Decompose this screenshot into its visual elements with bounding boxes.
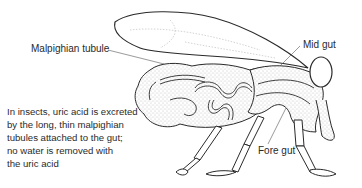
caption-line: In insects, uric acid is excreted: [7, 105, 137, 118]
leader-malpighian-tubule: [108, 50, 164, 64]
wing: [115, 12, 308, 68]
label-fore-gut: Fore gut: [258, 145, 295, 156]
label-mid-gut: Mid gut: [303, 39, 336, 50]
insect-excretion-diagram: Malpighian tubule Mid gut Fore gut In in…: [0, 0, 362, 188]
caption: In insects, uric acid is excreted by the…: [7, 105, 137, 170]
leader-fore-gut: [268, 108, 286, 144]
caption-line: by the long, thin malpighian: [7, 118, 137, 131]
caption-line: the uric acid: [7, 157, 137, 170]
caption-line: no water is removed with: [7, 144, 137, 157]
caption-line: tubules attached to the gut;: [7, 131, 137, 144]
label-malpighian-tubule: Malpighian tubule: [31, 43, 109, 54]
head: [310, 57, 332, 87]
